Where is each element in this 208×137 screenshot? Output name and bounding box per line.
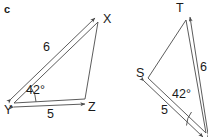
vertex-label-t: T (176, 2, 184, 15)
vertex-label-y: Y (4, 104, 12, 117)
triangle-tsu-outline (148, 20, 206, 133)
vertex-label-z: Z (88, 101, 96, 114)
measure-arrow-tu (190, 17, 208, 134)
side-measure-tu: 6 (200, 61, 207, 74)
side-measure-yx: 6 (43, 41, 50, 54)
side-measure-yz: 5 (47, 108, 54, 121)
side-measure-su: 5 (161, 104, 168, 117)
angle-measure-y: 42° (26, 84, 45, 97)
geometry-figure-panel: c X Y Z 6 5 42° T S 6 5 42° (0, 0, 208, 137)
measure-arrow-yx (11, 18, 95, 99)
angle-measure-u: 42° (172, 88, 191, 101)
vertex-label-s: S (136, 67, 144, 80)
part-label-c: c (4, 4, 10, 15)
vertex-label-x: X (103, 13, 111, 26)
